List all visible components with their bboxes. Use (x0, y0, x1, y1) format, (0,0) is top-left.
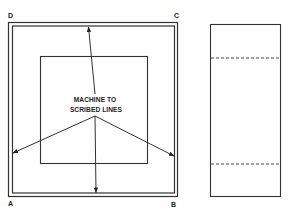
annotation-line-1: MACHINE TO (74, 96, 117, 103)
annotation-line-2: SCRIBED LINES (70, 106, 123, 113)
side-view-rectangle (211, 25, 281, 197)
corner-label-c: C (174, 12, 179, 19)
arrow-right (95, 116, 174, 156)
arrow-up (89, 27, 96, 94)
corner-label-a: A (8, 200, 13, 207)
corner-label-d: D (8, 12, 13, 19)
arrow-left (13, 116, 95, 153)
arrow-down (95, 116, 96, 193)
corner-label-b: B (171, 201, 176, 208)
machining-diagram: D C A B MACHINE TO SCRIBED LINES (0, 0, 289, 211)
